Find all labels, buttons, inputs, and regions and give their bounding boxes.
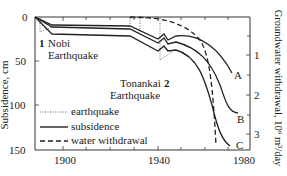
y2-tick-3: 3 (254, 128, 260, 140)
y-tick-50: 50 (15, 55, 27, 67)
tonankai-number: 2 (164, 77, 170, 89)
y2-tick-2: 2 (254, 89, 260, 101)
y-axis-title: Subsidence, cm (0, 60, 10, 129)
nobi-label-line1: Nobi (48, 37, 70, 49)
legend-earthquake-label: earthquake (71, 105, 119, 117)
y-tick-150: 150 (9, 144, 26, 156)
curve-b-label: B (237, 113, 244, 125)
y2-tick-1: 1 (254, 49, 260, 61)
nobi-label-line2: Earthquake (48, 49, 98, 61)
legend-subsidence-label: subsidence (71, 120, 119, 132)
legend-withdrawal-label: water withdrawal (71, 134, 148, 146)
x-tick-1940: 1940 (148, 154, 171, 166)
x-tick-1980: 1980 (233, 154, 256, 166)
subsidence-chart: earthquake subsidence water withdrawal 1… (0, 0, 287, 176)
tonankai-label-line2: Earthquake (110, 89, 160, 101)
curve-c-label: C (236, 139, 243, 151)
legend: earthquake subsidence water withdrawal (40, 105, 148, 146)
x-tick-1900: 1900 (54, 154, 77, 166)
y2-axis-title: Groundwater withdrawal, 10⁶ m³/day (273, 10, 284, 167)
curve-a-label: A (234, 69, 242, 81)
y-tick-0: 0 (22, 11, 28, 23)
tonankai-label-line1: Tonankai (120, 77, 161, 89)
y-tick-100: 100 (9, 99, 26, 111)
nobi-number: 1 (39, 37, 45, 49)
